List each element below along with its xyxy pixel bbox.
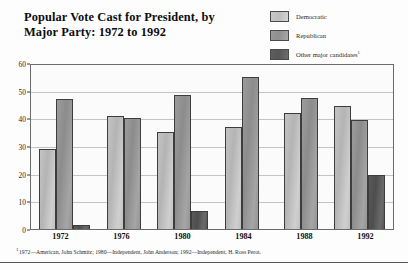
bar-republican-1992 — [351, 120, 368, 229]
bar-other-1992 — [368, 175, 385, 229]
bar-republican-1976 — [124, 118, 141, 229]
bar-other-1980 — [191, 211, 208, 229]
y-axis-tick-label: 60 — [19, 60, 26, 69]
legend-item-republican: Republican — [270, 27, 406, 43]
chart-footnote: 11972—American, John Schmitz; 1980—Indep… — [16, 246, 398, 256]
chart-legend: Democratic Republican Other major candid… — [270, 8, 406, 65]
legend-label-republican: Republican — [296, 31, 326, 40]
chart-title: Popular Vote Cast for President, by Majo… — [24, 10, 254, 40]
bar-group-1984 — [212, 65, 271, 229]
y-axis-tick-label: 0 — [22, 226, 26, 235]
x-axis-label-1972: 1972 — [30, 232, 91, 244]
y-axis-tick-label: 40 — [19, 115, 26, 124]
bar-republican-1972 — [56, 99, 73, 229]
bar-democratic-1972 — [39, 149, 56, 229]
bar-group-1972 — [35, 65, 94, 229]
bar-group-1988 — [271, 65, 330, 229]
y-axis-tick-label: 30 — [19, 143, 26, 152]
legend-label-democratic: Democratic — [296, 12, 327, 21]
chart-title-line-2: Major Party: 1972 to 1992 — [24, 25, 254, 40]
y-axis: 0102030405060 — [12, 64, 30, 230]
legend-item-other: Other major candidates1 — [270, 46, 406, 62]
x-axis-labels: 197219761980198419881992 — [30, 232, 396, 244]
bar-groups — [31, 65, 393, 229]
x-axis-label-1988: 1988 — [274, 232, 335, 244]
bar-democratic-1980 — [157, 132, 174, 229]
bar-other-1972 — [73, 225, 90, 229]
x-axis-label-1976: 1976 — [91, 232, 152, 244]
x-axis-label-1984: 1984 — [213, 232, 274, 244]
legend-label-other-text: Other major candidates — [296, 52, 358, 59]
bar-group-1980 — [153, 65, 212, 229]
plot-area: 0102030405060 — [12, 64, 394, 230]
legend-item-democratic: Democratic — [270, 8, 406, 24]
y-axis-tick-label: 50 — [19, 87, 26, 96]
bar-democratic-1988 — [284, 113, 301, 229]
bar-republican-1984 — [242, 77, 259, 229]
bar-republican-1980 — [174, 95, 191, 229]
legend-swatch-other — [270, 49, 289, 60]
legend-swatch-democratic — [270, 11, 289, 22]
bar-republican-1988 — [301, 98, 318, 229]
bar-group-1992 — [330, 65, 389, 229]
plot-panel — [30, 64, 394, 230]
bar-democratic-1976 — [107, 116, 124, 229]
chart-title-line-1: Popular Vote Cast for President, by — [24, 10, 254, 25]
footnote-text: 1972—American, John Schmitz; 1980—Indepe… — [19, 249, 261, 255]
x-axis-label-1992: 1992 — [335, 232, 396, 244]
legend-label-other: Other major candidates1 — [296, 48, 360, 59]
y-axis-tick-label: 10 — [19, 198, 26, 207]
x-axis-label-1980: 1980 — [152, 232, 213, 244]
legend-footnote-marker: 1 — [358, 50, 360, 55]
chart-figure: Popular Vote Cast for President, by Majo… — [0, 0, 408, 270]
y-axis-tick-label: 20 — [19, 170, 26, 179]
bar-group-1976 — [94, 65, 153, 229]
bar-democratic-1992 — [334, 106, 351, 229]
bar-democratic-1984 — [225, 127, 242, 229]
legend-swatch-republican — [270, 30, 289, 41]
bottom-divider — [0, 262, 408, 263]
